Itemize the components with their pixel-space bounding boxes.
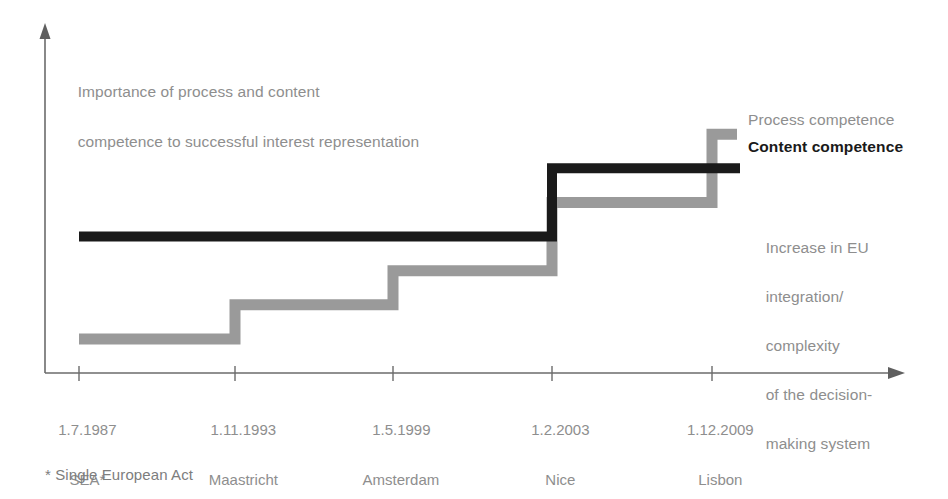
y-axis-arrow-icon xyxy=(40,23,51,39)
y-axis-caption: Importance of process and content compet… xyxy=(60,54,419,179)
annotation-eu-integration: Increase in EU integration/ complexity o… xyxy=(748,211,872,481)
footnote-single-european-act: * Single European Act xyxy=(45,466,193,483)
legend-item-content-competence: Content competence xyxy=(748,138,903,156)
x-tick-label-5: 1.12.2009 Lisbon xyxy=(670,392,753,499)
x-tick-date-1: 1.7.1987 xyxy=(58,421,116,438)
annotation-line-1: Increase in EU xyxy=(766,239,869,256)
x-tick-date-4: 1.2.2003 xyxy=(531,421,589,438)
x-tick-date-3: 1.5.1999 xyxy=(372,421,430,438)
x-tick-place-2: Maastricht xyxy=(209,471,278,488)
y-axis-caption-line-1: Importance of process and content xyxy=(78,83,320,100)
annotation-line-4: of the decision- xyxy=(766,386,873,403)
legend-item-process-competence: Process competence xyxy=(748,111,895,129)
x-tick-date-5: 1.12.2009 xyxy=(687,421,754,438)
annotation-line-2: integration/ xyxy=(766,288,844,305)
y-axis-caption-line-2: competence to successful interest repres… xyxy=(78,133,420,150)
x-tick-place-5: Lisbon xyxy=(698,471,742,488)
annotation-line-5: making system xyxy=(766,435,871,452)
x-tick-label-2: 1.11.1993 Maastricht xyxy=(192,392,278,499)
x-axis-arrow-icon xyxy=(888,367,905,379)
annotation-line-3: complexity xyxy=(766,337,840,354)
x-tick-label-4: 1.2.2003 Nice xyxy=(514,392,589,499)
x-tick-label-3: 1.5.1999 Amsterdam xyxy=(347,392,440,499)
step-chart-figure: Importance of process and content compet… xyxy=(0,0,948,499)
x-tick-date-2: 1.11.1993 xyxy=(211,421,277,438)
x-tick-place-3: Amsterdam xyxy=(363,471,440,488)
y-axis xyxy=(40,23,51,373)
x-tick-place-4: Nice xyxy=(545,471,575,488)
